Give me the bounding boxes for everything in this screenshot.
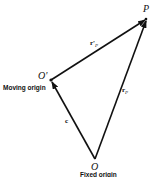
label-moving-origin: Moving origin [3,85,46,92]
vector-c [52,82,95,159]
vector-r-prime-p [51,20,145,80]
label-p: P [143,4,149,14]
vector-r-p [95,21,146,159]
point-o-prime [49,78,52,81]
label-fixed-origin: Fixed origin [80,172,117,177]
r-p-subscript: P [125,90,128,95]
r-prime-p-subscript: P [95,43,98,48]
label-r-p: rP [122,87,128,95]
point-p [145,18,148,21]
label-r-prime-p: r'P [90,40,98,48]
label-o-prime: O' [38,71,47,81]
label-c: c [65,118,68,125]
